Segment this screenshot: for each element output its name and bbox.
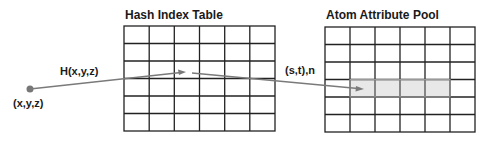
hash-function-label: H(x,y,z): [60, 65, 98, 77]
lookup-label: (s,t),n: [285, 64, 315, 76]
source-point-label: (x,y,z): [13, 97, 43, 109]
lookup-arrow: [192, 73, 364, 92]
hash-arrow: [30, 70, 186, 90]
